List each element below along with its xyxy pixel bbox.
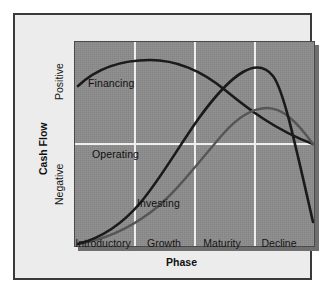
x-tick-decline: Decline xyxy=(249,237,309,249)
plot-area xyxy=(74,41,315,247)
x-tick-growth: Growth xyxy=(133,237,195,249)
series-label-investing: Investing xyxy=(137,197,180,209)
curves-svg xyxy=(75,42,315,247)
y-tick-positive: Positive xyxy=(53,63,65,100)
y-axis-title: Cash Flow xyxy=(37,122,49,175)
x-tick-maturity: Maturity xyxy=(191,237,253,249)
chart-card: Cash Flow Positive Negative Financing Op… xyxy=(13,13,312,280)
y-tick-negative: Negative xyxy=(53,164,65,205)
series-label-financing: Financing xyxy=(88,77,134,89)
series-label-operating: Operating xyxy=(92,148,139,160)
x-axis-title: Phase xyxy=(61,256,302,268)
series-path-financing xyxy=(78,60,313,144)
x-tick-introductory: Introductory xyxy=(65,237,141,249)
figure-canvas: Cash Flow Positive Negative Financing Op… xyxy=(0,0,329,297)
